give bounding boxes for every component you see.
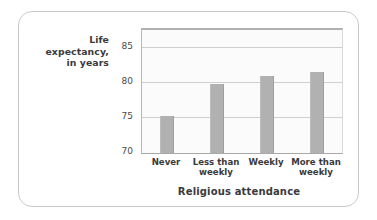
y-axis-title-line-3: in years — [25, 57, 109, 69]
bar-slot — [242, 30, 292, 153]
chart-card: Life expectancy, in years 85 80 75 70 Ne… — [18, 11, 359, 207]
y-tick-label-80: 80 — [122, 76, 133, 86]
bar-slot — [142, 30, 192, 153]
y-axis-title-line-2: expectancy, — [25, 46, 109, 58]
plot-area — [141, 28, 343, 154]
x-tick-label-line: weekly — [287, 167, 345, 177]
bar-never[interactable] — [160, 116, 174, 153]
bar-weekly[interactable] — [260, 76, 274, 153]
bar-less-than-weekly[interactable] — [210, 84, 224, 153]
bar-slot — [192, 30, 242, 153]
y-axis-title-line-1: Life — [25, 34, 109, 46]
y-axis-tick-labels: 85 80 75 70 — [105, 28, 137, 154]
y-tick-label-85: 85 — [122, 41, 133, 51]
y-tick-label-75: 75 — [122, 111, 133, 121]
x-tick-label-more-than-weekly: More thanweekly — [287, 157, 345, 178]
y-axis-title: Life expectancy, in years — [25, 34, 109, 69]
x-axis-title: Religious attendance — [119, 186, 359, 197]
y-tick-label-70: 70 — [122, 146, 133, 156]
bar-slot — [292, 30, 342, 153]
x-tick-label-line: More than — [287, 157, 345, 167]
bar-more-than-weekly[interactable] — [310, 72, 324, 153]
x-tick-label-line: weekly — [187, 167, 245, 177]
x-axis-tick-labels: NeverLess thanweeklyWeeklyMore thanweekl… — [141, 157, 343, 187]
bars-layer — [142, 30, 342, 153]
